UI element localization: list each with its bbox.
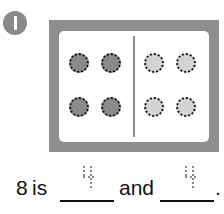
sentence-period: .: [215, 176, 221, 200]
light-counter: [176, 53, 196, 73]
word-is: is: [32, 176, 47, 200]
dark-counter: [69, 53, 89, 73]
traced-answer-1: [82, 166, 94, 188]
problem-number-badge: [3, 11, 27, 35]
light-counter: [144, 53, 164, 73]
dark-counter: [69, 97, 89, 117]
number-one-glyph: [14, 16, 17, 30]
answer-blank-1[interactable]: [60, 200, 114, 202]
dark-counter: [101, 53, 121, 73]
answer-blank-2[interactable]: [160, 200, 214, 202]
light-counter: [176, 97, 196, 117]
dark-counter: [101, 97, 121, 117]
counter-frame-inner: [59, 31, 209, 142]
word-and: and: [119, 176, 154, 200]
traced-answer-2: [184, 166, 196, 188]
counter-frame: [49, 20, 219, 152]
frame-divider: [133, 36, 135, 137]
light-counter: [144, 97, 164, 117]
total-number: 8: [16, 176, 28, 200]
